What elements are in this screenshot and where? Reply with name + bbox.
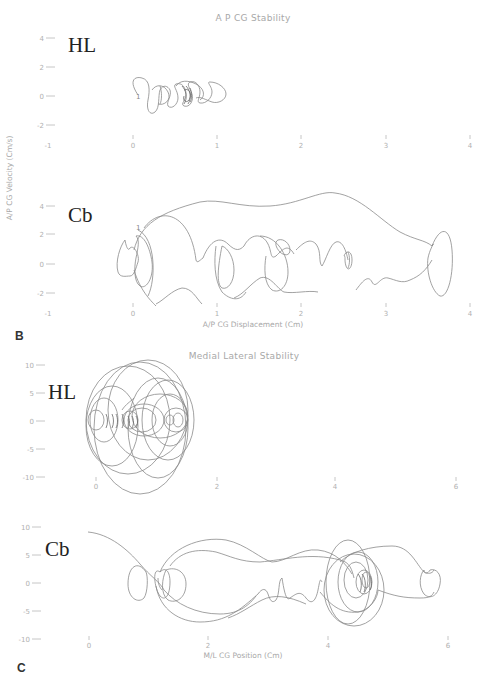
ap-hl-xtick: 0 — [131, 142, 135, 150]
panel-letter-b: B — [15, 329, 24, 343]
ml-cb-xtick: 4 — [326, 642, 331, 650]
ap-cb-ytick: 2 — [40, 231, 44, 239]
ap-hl-ytick: 4 — [40, 35, 45, 43]
ml-hl-ytick: 5 — [30, 390, 34, 398]
ap-cb-ytick: 4 — [40, 203, 45, 211]
ap-x-axis-label: A/P CG Displacement (Cm) — [203, 320, 303, 329]
ml-hl-ytick: -5 — [27, 446, 34, 454]
ml-cb-ytick: -10 — [19, 636, 30, 644]
ml-hl-xtick: 6 — [454, 483, 459, 491]
ap-hl-trace — [133, 78, 226, 114]
panel-letter-c: C — [17, 661, 26, 675]
ml-hl-xtick: 4 — [333, 483, 338, 491]
ml-cb-ytick: 5 — [26, 552, 30, 560]
ap-cb-xtick: 1 — [215, 310, 219, 318]
ml-hl-ytick: 0 — [30, 418, 34, 426]
ap-cb-subplot: Cb 4 2 0 -2 -1 0 1 2 3 4 — [37, 193, 473, 318]
ap-cb-xtick: -1 — [45, 310, 52, 318]
ap-cb-xtick: 4 — [468, 310, 473, 318]
ml-hl-ytick: 10 — [25, 362, 34, 370]
ml-x-axis-label: M/L CG Position (Cm) — [204, 651, 283, 660]
ml-hl-group-label: HL — [48, 380, 76, 404]
ml-cb-ytick: -5 — [23, 608, 30, 616]
ml-hl-ytick: -10 — [23, 474, 34, 482]
ap-hl-start-marker: 1 — [136, 93, 140, 101]
ap-cb-trace — [117, 193, 452, 306]
ml-cb-trace — [88, 532, 440, 626]
ap-hl-subplot: HL 4 2 0 -2 -1 0 1 2 3 4 1 — [37, 33, 473, 150]
ml-cb-ytick: 0 — [26, 580, 30, 588]
ap-cb-ytick: -2 — [37, 290, 44, 298]
ml-chart-title: Medial Lateral Stability — [189, 351, 300, 361]
stability-figure: A P CG Stability A/P CG Velocity (Cm/s) … — [0, 0, 485, 698]
ap-chart-title: A P CG Stability — [215, 13, 290, 23]
ap-hl-ytick: -2 — [37, 122, 44, 130]
ap-cb-xtick: 3 — [384, 310, 388, 318]
ap-hl-xtick: 3 — [384, 142, 388, 150]
ap-cb-xtick: 0 — [131, 310, 135, 318]
ap-hl-ytick: 0 — [40, 93, 44, 101]
ap-hl-xtick: 4 — [468, 142, 473, 150]
ml-cb-xtick: 6 — [446, 642, 451, 650]
figure-canvas: A P CG Stability A/P CG Velocity (Cm/s) … — [0, 0, 485, 698]
ml-cb-xtick: 2 — [206, 642, 210, 650]
ml-cb-group-label: Cb — [45, 537, 70, 561]
ap-hl-xtick: 2 — [299, 142, 303, 150]
ml-hl-xtick: 2 — [215, 483, 219, 491]
ml-cb-subplot: Cb 10 5 0 -5 -10 0 2 4 6 — [19, 524, 451, 650]
ml-hl-trace — [86, 360, 194, 494]
ml-hl-xtick: 0 — [94, 483, 98, 491]
ap-hl-group-label: HL — [68, 33, 96, 57]
ap-hl-xtick: 1 — [215, 142, 219, 150]
ap-hl-ytick: 2 — [40, 64, 44, 72]
ap-cb-ytick: 0 — [40, 261, 44, 269]
ap-cb-start-marker: 1 — [136, 224, 140, 232]
ml-hl-subplot: HL 10 5 0 -5 -10 0 2 4 6 — [23, 360, 459, 494]
ap-cb-xtick: 2 — [299, 310, 303, 318]
ml-cb-xtick: 0 — [87, 642, 91, 650]
ap-cb-group-label: Cb — [68, 203, 93, 227]
ml-cb-ytick: 10 — [21, 524, 30, 532]
ap-hl-xtick: -1 — [45, 142, 52, 150]
ap-y-axis-label: A/P CG Velocity (Cm/s) — [5, 136, 14, 221]
